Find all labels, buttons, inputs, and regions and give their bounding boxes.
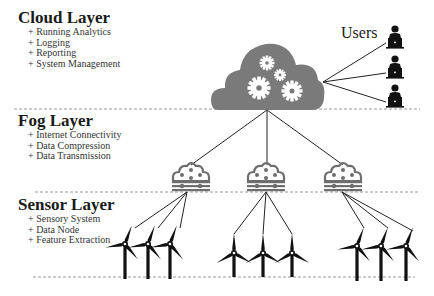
fog-node-icon: [247, 163, 285, 191]
wind-turbine-icon: [337, 227, 371, 281]
link-fog2-turbine: [234, 192, 266, 234]
link-cloud-fog-1: [191, 110, 267, 165]
cloud-gears-icon: [211, 44, 324, 110]
link-cloud-user-1: [323, 43, 386, 82]
turbines-left: [105, 225, 184, 279]
link-fog3-turbine: [342, 192, 364, 228]
link-fog2-turbine: [263, 192, 266, 234]
architecture-diagram: [0, 0, 434, 296]
wind-turbine-icon: [361, 227, 395, 281]
turbines-middle: [216, 233, 310, 277]
fog-nodes: [172, 163, 362, 191]
wind-turbine-icon: [245, 233, 281, 277]
user-laptop-icon: [386, 25, 404, 48]
link-fog1-turbine: [158, 192, 187, 228]
link-fog2-turbine: [266, 192, 292, 234]
user-laptop-icon: [386, 84, 404, 107]
link-fog3-turbine: [342, 192, 388, 228]
wind-turbine-icon: [274, 233, 310, 277]
user-laptop-icon: [386, 55, 404, 78]
wind-turbine-icon: [105, 225, 139, 279]
link-fog1-turbine: [180, 192, 187, 228]
link-cloud-user-3: [323, 82, 386, 102]
wind-turbine-icon: [386, 227, 420, 281]
wind-turbine-icon: [128, 225, 162, 279]
link-cloud-user-2: [323, 73, 386, 82]
link-fog3-turbine: [342, 192, 413, 231]
turbines-right: [337, 227, 420, 281]
fog-node-icon: [324, 163, 362, 191]
link-fog1-turbine: [135, 192, 187, 228]
fog-node-icon: [172, 163, 210, 191]
users-group: [386, 25, 404, 107]
link-cloud-fog-3: [267, 110, 343, 165]
layer-separators: [14, 109, 420, 277]
wind-turbine-icon: [216, 233, 252, 277]
